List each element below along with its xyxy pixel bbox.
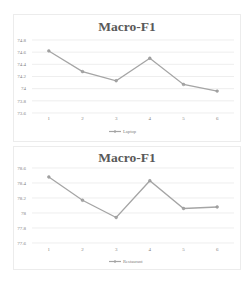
x-tick-label: 3	[115, 247, 118, 252]
data-point-marker	[182, 83, 185, 86]
data-point-marker	[148, 179, 151, 182]
y-tick-label: 77.6	[17, 241, 26, 246]
y-tick-label: 73.6	[17, 111, 26, 116]
x-tick-label: 6	[216, 247, 219, 252]
data-point-marker	[216, 90, 219, 93]
data-point-marker	[148, 57, 151, 60]
y-tick-label: 78	[21, 211, 27, 216]
y-tick-label: 78.6	[17, 166, 26, 171]
y-tick-label: 77.8	[17, 226, 26, 231]
line-plot-restaurant: 78.678.478.27877.877.6123456Restaurant	[14, 147, 240, 269]
x-tick-label: 2	[81, 247, 84, 252]
y-tick-label: 74.6	[17, 50, 26, 55]
x-tick-label: 4	[149, 116, 152, 121]
data-point-marker	[81, 70, 84, 73]
legend-marker-icon	[114, 260, 116, 262]
data-point-marker	[115, 216, 118, 219]
x-tick-label: 1	[48, 247, 51, 252]
legend-marker-icon	[114, 130, 116, 132]
x-tick-label: 5	[182, 116, 185, 121]
x-tick-label: 4	[149, 247, 152, 252]
y-tick-label: 74.8	[17, 38, 26, 43]
data-point-marker	[216, 206, 219, 209]
y-tick-label: 78.4	[17, 181, 26, 186]
y-tick-label: 73.8	[17, 99, 26, 104]
chart-restaurant: Macro-F1 78.678.478.27877.877.6123456Res…	[13, 146, 241, 270]
x-tick-label: 6	[216, 116, 219, 121]
x-tick-label: 3	[115, 116, 118, 121]
y-tick-label: 74	[21, 86, 27, 91]
legend-label: Restaurant	[123, 259, 143, 264]
line-plot-laptop: 74.874.674.474.27473.873.6123456Laptop	[14, 15, 240, 141]
y-tick-label: 74.2	[17, 74, 26, 79]
data-point-marker	[47, 176, 50, 179]
y-tick-label: 78.2	[17, 196, 26, 201]
y-tick-label: 74.4	[17, 62, 26, 67]
legend-label: Laptop	[123, 129, 137, 134]
series-line	[49, 51, 217, 91]
chart-laptop: Macro-F1 74.874.674.474.27473.873.612345…	[13, 14, 241, 142]
data-point-marker	[47, 50, 50, 53]
x-tick-label: 1	[48, 116, 51, 121]
data-point-marker	[182, 207, 185, 210]
data-point-marker	[115, 79, 118, 82]
x-tick-label: 5	[182, 247, 185, 252]
x-tick-label: 2	[81, 116, 84, 121]
data-point-marker	[81, 199, 84, 202]
